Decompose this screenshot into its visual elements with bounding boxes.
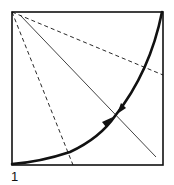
- diagram-canvas: [0, 0, 174, 185]
- thick-curve: [12, 12, 162, 164]
- dashed-line-steep: [12, 12, 73, 165]
- dashed-line-shallow: [12, 12, 163, 75]
- figure-label: 1: [11, 170, 18, 183]
